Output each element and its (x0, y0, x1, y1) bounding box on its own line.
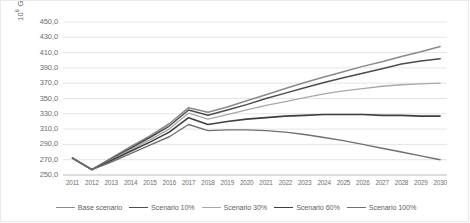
y-tick-label: 290,0 (26, 139, 58, 148)
legend-swatch-icon (347, 207, 366, 208)
legend-label: Scenario 100% (369, 203, 416, 212)
legend-label: Base scenario (78, 203, 122, 212)
legend-item-1[interactable]: Scenario 10% (129, 203, 195, 212)
series-lines (73, 46, 441, 169)
series-line-3 (73, 115, 441, 170)
y-tick-label: 270,0 (26, 155, 58, 164)
legend-swatch-icon (129, 207, 148, 208)
energy-scenario-line-chart: 106 Gigajoule 450,0430,0410,0390,0370,03… (0, 0, 470, 223)
legend-swatch-icon (56, 207, 75, 208)
chart-legend: Base scenarioScenario 10%Scenario 30%Sce… (40, 203, 432, 212)
series-line-4 (73, 125, 441, 170)
plot-area (0, 0, 470, 223)
y-tick-label: 390,0 (26, 63, 58, 72)
y-tick-label: 410,0 (26, 48, 58, 57)
legend-label: Scenario 30% (224, 203, 268, 212)
series-line-2 (73, 83, 441, 169)
legend-item-0[interactable]: Base scenario (56, 203, 122, 212)
legend-label: Scenario 10% (151, 203, 195, 212)
legend-label: Scenario 60% (296, 203, 340, 212)
y-tick-label: 350,0 (26, 94, 58, 103)
y-tick-label: 250,0 (26, 170, 58, 179)
legend-item-2[interactable]: Scenario 30% (202, 203, 268, 212)
legend-item-3[interactable]: Scenario 60% (274, 203, 340, 212)
y-tick-label: 430,0 (26, 32, 58, 41)
legend-swatch-icon (202, 207, 221, 208)
legend-swatch-icon (274, 207, 293, 208)
y-tick-label: 370,0 (26, 78, 58, 87)
x-tick-label: 2030 (429, 179, 451, 186)
y-tick-label: 330,0 (26, 109, 58, 118)
y-tick-label: 450,0 (26, 17, 58, 26)
legend-item-4[interactable]: Scenario 100% (347, 203, 416, 212)
y-tick-label: 310,0 (26, 124, 58, 133)
